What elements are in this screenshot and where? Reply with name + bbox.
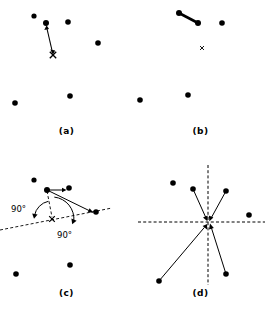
data-point [170,180,176,186]
data-point [156,278,162,284]
data-point [93,209,99,215]
arrow-shaft [47,190,90,211]
panel-c: 90° 90° (c) [0,157,133,313]
data-point [12,100,18,106]
arrow-shaft [159,227,204,281]
panel-label-a: (a) [0,126,133,136]
data-point [95,40,101,46]
panel-a-arrow [44,25,55,54]
data-point [67,262,73,268]
arrow-shaft [211,227,226,274]
panel-a: (a) [0,0,133,156]
panel-b: (b) [134,0,267,156]
angle-label-right: 90° [57,230,72,240]
figure-container: (a) (b) [0,0,267,313]
data-point [190,186,196,192]
data-point [176,10,182,16]
data-point [44,187,50,193]
panel-c-dots [13,177,99,276]
cross-marker [49,216,55,222]
arrow-shaft [211,191,226,218]
panel-b-dots [137,10,225,103]
arrow-head-icon [209,224,214,230]
panel-label-d: (d) [134,288,267,298]
data-point [185,92,191,98]
data-point [31,177,36,182]
arrow-head-icon [62,188,67,192]
data-point [223,188,229,194]
arrow-head-up-icon [44,25,49,30]
panel-label-c: (c) [0,288,133,298]
panel-c-arrows [47,188,94,213]
panel-b-segment [179,13,198,23]
panel-d: (d) [134,157,267,313]
arrow-shaft [47,27,53,53]
data-point [65,19,71,25]
data-point [195,20,201,26]
right-angle-arc [35,201,49,215]
angle-label-left: 90° [11,204,26,214]
arrow-shaft [193,189,206,218]
data-point [31,13,36,18]
dashed-normal [47,191,52,217]
panel-d-dashed-axes [138,165,265,285]
data-point [246,212,252,218]
data-point [43,20,49,26]
panel-label-b: (b) [134,126,267,136]
panel-d-dots [156,180,252,284]
arc-arrow-head-icon [32,214,37,219]
data-point [13,271,19,277]
arrow-head-icon [88,208,94,213]
connector-segment [179,13,198,23]
panel-d-arrows [159,189,226,281]
data-point [137,97,143,103]
data-point [219,20,225,26]
data-point [67,93,73,99]
panel-a-dots [12,13,101,105]
arrow-head-icon [209,215,214,221]
data-point [66,185,72,191]
cross-marker [200,46,204,50]
data-point [223,271,229,277]
